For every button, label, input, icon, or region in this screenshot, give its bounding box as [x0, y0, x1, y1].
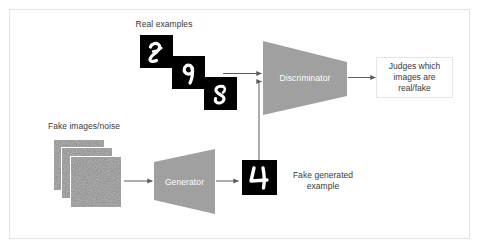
discriminator-block[interactable]: Discriminator [262, 40, 348, 116]
real-example-tile-2 [140, 35, 173, 68]
real-example-tile-9 [172, 56, 205, 89]
real-examples-label: Real examples [126, 19, 202, 30]
fake-images-noise-label: Fake images/noise [24, 121, 144, 132]
fake-generated-example-label: Fake generated example [281, 170, 365, 191]
generator-block[interactable]: Generator [153, 148, 216, 215]
discriminator-label: Discriminator [262, 73, 348, 83]
real-example-tile-8 [204, 77, 237, 110]
generator-label: Generator [153, 177, 216, 187]
noise-tile-3 [70, 156, 122, 208]
gan-architecture-diagram: Real examples [0, 0, 481, 250]
fake-generated-tile-4 [242, 160, 277, 195]
discriminator-output-box: Judges which images are real/fake [376, 57, 453, 98]
